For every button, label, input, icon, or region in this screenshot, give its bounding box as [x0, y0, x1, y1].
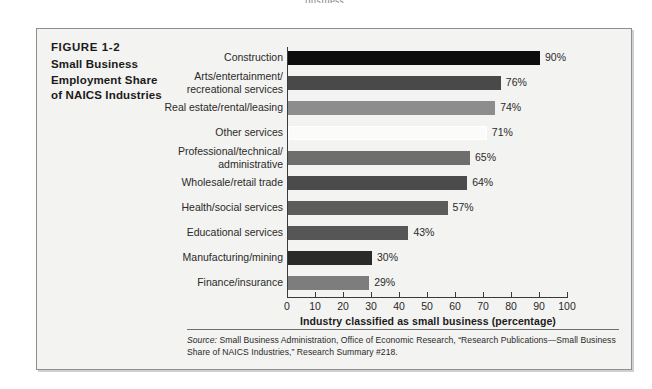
x-axis-tick: [315, 292, 316, 297]
category-label-line: recreational services: [137, 83, 283, 96]
bar: [288, 276, 369, 290]
x-axis-line: [287, 297, 568, 298]
x-axis-tick-label: 50: [415, 300, 439, 312]
x-axis-tick-label: 30: [359, 300, 383, 312]
bar-value-label: 71%: [492, 126, 513, 138]
category-label-line: Health/social services: [137, 201, 283, 214]
category-label: Real estate/rental/leasing: [137, 101, 283, 114]
bar: [288, 51, 540, 65]
category-label: Professional/technical/administrative: [137, 145, 283, 170]
x-axis-tick: [455, 292, 456, 297]
x-axis-tick-label: 0: [275, 300, 299, 312]
y-axis-line: [287, 47, 288, 297]
category-label-line: administrative: [137, 158, 283, 171]
category-label: Educational services: [137, 226, 283, 239]
category-label: Manufacturing/mining: [137, 251, 283, 264]
bar-value-label: 65%: [475, 151, 496, 163]
x-axis-tick: [371, 292, 372, 297]
x-axis-tick-label: 80: [499, 300, 523, 312]
x-axis-tick: [567, 292, 568, 297]
x-axis-tick: [287, 292, 288, 297]
category-label-line: Wholesale/retail trade: [137, 176, 283, 189]
x-axis-tick-label: 20: [331, 300, 355, 312]
x-axis-tick: [511, 292, 512, 297]
source-text: Small Business Administration, Office of…: [187, 335, 616, 357]
bar: [288, 251, 372, 265]
category-label-line: Finance/insurance: [137, 276, 283, 289]
category-label: Wholesale/retail trade: [137, 176, 283, 189]
bar: [288, 226, 408, 240]
x-axis-tick: [483, 292, 484, 297]
bar-value-label: 30%: [377, 251, 398, 263]
x-axis-tick: [343, 292, 344, 297]
x-axis-tick: [399, 292, 400, 297]
bar-chart: Construction90%Arts/entertainment/recrea…: [137, 47, 623, 315]
category-label: Arts/entertainment/recreational services: [137, 70, 283, 95]
x-axis-tick: [539, 292, 540, 297]
category-label: Health/social services: [137, 201, 283, 214]
bar: [288, 101, 495, 115]
category-label-line: Construction: [137, 51, 283, 64]
figure-box: FIGURE 1-2 Small Business Employment Sha…: [36, 28, 632, 370]
source-note: Source: Small Business Administration, O…: [187, 335, 623, 358]
bar-value-label: 43%: [413, 226, 434, 238]
bar-value-label: 74%: [500, 101, 521, 113]
category-label-line: Real estate/rental/leasing: [137, 101, 283, 114]
x-axis-tick: [427, 292, 428, 297]
category-label-line: Educational services: [137, 226, 283, 239]
category-label-line: Other services: [137, 126, 283, 139]
x-axis-tick-label: 60: [443, 300, 467, 312]
bar-value-label: 29%: [374, 276, 395, 288]
bar: [288, 151, 470, 165]
x-axis-tick-label: 70: [471, 300, 495, 312]
page-body-text-fragment: business.: [0, 0, 652, 3]
x-axis-tick-label: 90: [527, 300, 551, 312]
bar: [288, 201, 448, 215]
category-label-line: Arts/entertainment/: [137, 70, 283, 83]
bar: [288, 126, 487, 140]
bar-value-label: 57%: [453, 201, 474, 213]
bar-value-label: 90%: [545, 51, 566, 63]
x-axis-tick-label: 10: [303, 300, 327, 312]
category-label-line: Manufacturing/mining: [137, 251, 283, 264]
source-label: Source:: [187, 335, 217, 345]
bar-value-label: 76%: [506, 76, 527, 88]
bar-value-label: 64%: [472, 176, 493, 188]
source-divider: [187, 329, 619, 330]
category-label-line: Professional/technical/: [137, 145, 283, 158]
bar: [288, 76, 501, 90]
category-label: Construction: [137, 51, 283, 64]
x-axis-tick-label: 100: [555, 300, 579, 312]
category-label: Other services: [137, 126, 283, 139]
x-axis-title: Industry classified as small business (p…: [287, 315, 569, 327]
category-label: Finance/insurance: [137, 276, 283, 289]
x-axis-tick-label: 40: [387, 300, 411, 312]
bar: [288, 176, 467, 190]
